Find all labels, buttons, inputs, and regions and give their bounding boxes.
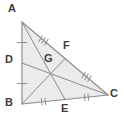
geometry-figure: A D B E C F G: [0, 0, 124, 123]
point-label-d: D: [5, 54, 13, 65]
point-label-c: C: [110, 88, 118, 99]
point-label-e: E: [61, 103, 68, 114]
point-label-g: G: [44, 53, 53, 64]
point-label-a: A: [8, 3, 16, 14]
triangle-abc-fill: [22, 22, 108, 104]
point-label-f: F: [63, 40, 70, 51]
point-label-b: B: [5, 97, 13, 108]
